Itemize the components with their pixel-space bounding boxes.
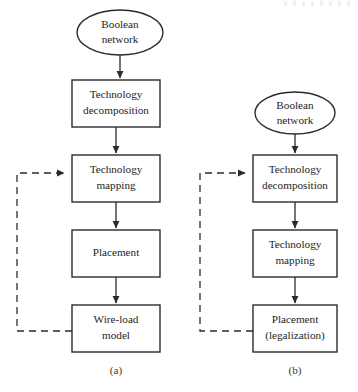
panel-a-start-label-line1: Boolean bbox=[101, 18, 139, 30]
panel-a-step-placement: Placement bbox=[72, 230, 160, 277]
panel-b-step3-label-line1: Placement bbox=[272, 313, 319, 325]
panel-a-step4-label-line2: model bbox=[102, 329, 130, 341]
panel-a-step1-label-line1: Technology bbox=[90, 88, 143, 100]
panel-b-step-placement-legalization: Placement (legalization) bbox=[253, 305, 337, 352]
flowchart-diagram: Boolean network Technology decomposition… bbox=[0, 0, 358, 392]
panel-a-step-wire-load-model: Wire-load model bbox=[72, 305, 160, 352]
panel-b-feedback-loop bbox=[200, 173, 253, 331]
panel-a: Boolean network Technology decomposition… bbox=[17, 10, 163, 377]
panel-b-step3-label-line2: (legalization) bbox=[265, 329, 325, 342]
panel-b-step2-label-line2: mapping bbox=[275, 254, 315, 266]
panel-b-start-label-line2: network bbox=[277, 114, 314, 126]
panel-b-step-technology-mapping: Technology mapping bbox=[253, 230, 337, 277]
panel-b-step1-label-line1: Technology bbox=[269, 163, 322, 175]
panel-a-step-technology-mapping: Technology mapping bbox=[72, 155, 160, 202]
panel-b-step2-label-line1: Technology bbox=[269, 238, 322, 250]
panel-a-step1-label-line2: decomposition bbox=[83, 104, 149, 116]
panel-b-step-technology-decomposition: Technology decomposition bbox=[253, 155, 337, 202]
panel-b: Boolean network Technology decomposition… bbox=[200, 92, 337, 377]
panel-a-caption: (a) bbox=[110, 364, 123, 377]
panel-a-feedback-loop bbox=[17, 173, 72, 331]
panel-a-start-node: Boolean network bbox=[77, 10, 163, 55]
panel-a-step-technology-decomposition: Technology decomposition bbox=[72, 80, 160, 127]
panel-b-start-node: Boolean network bbox=[255, 92, 335, 134]
panel-b-caption: (b) bbox=[288, 364, 301, 377]
figure-canvas: Boolean network Technology decomposition… bbox=[0, 0, 358, 392]
panel-a-step4-label-line1: Wire-load bbox=[94, 313, 139, 325]
panel-a-step2-label-line2: mapping bbox=[96, 179, 136, 191]
panel-b-step1-label-line2: decomposition bbox=[262, 179, 328, 191]
panel-b-start-label-line1: Boolean bbox=[276, 99, 314, 111]
panel-a-step2-label-line1: Technology bbox=[90, 163, 143, 175]
panel-a-step3-label-line1: Placement bbox=[93, 246, 140, 258]
panel-a-start-label-line2: network bbox=[102, 33, 139, 45]
